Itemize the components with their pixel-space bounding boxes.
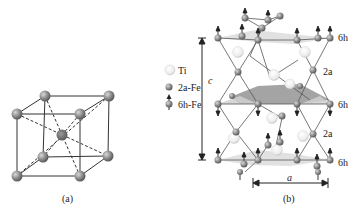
legend-6h-fe-label: 6h-Fe <box>178 99 202 110</box>
c-axis-label: c <box>208 75 213 86</box>
site-label-6h-middle: 6h <box>338 99 348 110</box>
legend-2a-fe-label: 2a-Fe <box>178 82 201 93</box>
gray-sphere-icon <box>166 84 173 91</box>
panel-b-caption: (b) <box>283 193 295 205</box>
site-label-6h-bottom: 6h <box>338 157 348 168</box>
site-label-2a-upper: 2a <box>323 66 333 77</box>
gray-sphere-with-spin-arrow-icon <box>166 94 173 110</box>
legend-ti-label: Ti <box>178 65 187 76</box>
a-axis-label: a <box>287 172 292 183</box>
white-sphere-icon <box>165 65 175 75</box>
center-atom <box>57 130 68 141</box>
legend: Ti 2a-Fe 6h-Fe <box>165 65 202 111</box>
site-label-6h-top: 6h <box>338 32 348 43</box>
crystal-structure-figure: (a) Ti 2a-Fe 6h-Fe c <box>0 0 359 215</box>
panel-a-caption: (a) <box>62 193 73 205</box>
site-label-2a-lower: 2a <box>323 128 333 139</box>
